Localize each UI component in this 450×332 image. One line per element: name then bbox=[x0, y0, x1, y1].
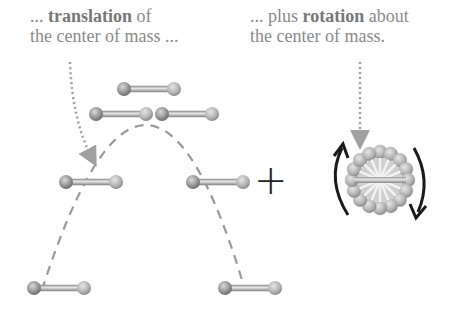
molecule-upper-left bbox=[89, 107, 153, 121]
molecule-bottom-left bbox=[27, 281, 91, 295]
diagram-canvas bbox=[0, 0, 450, 332]
plus-operator: + bbox=[254, 160, 288, 200]
molecule-middle-right bbox=[186, 175, 250, 189]
trajectory-path bbox=[42, 125, 245, 290]
rotating-molecule-icon bbox=[345, 145, 415, 215]
molecule-bottom-right bbox=[218, 281, 282, 295]
translation-pointer-icon bbox=[70, 62, 92, 158]
molecule-middle-left bbox=[59, 175, 123, 189]
molecule-upper-right bbox=[155, 107, 219, 121]
molecule-top bbox=[117, 82, 181, 96]
